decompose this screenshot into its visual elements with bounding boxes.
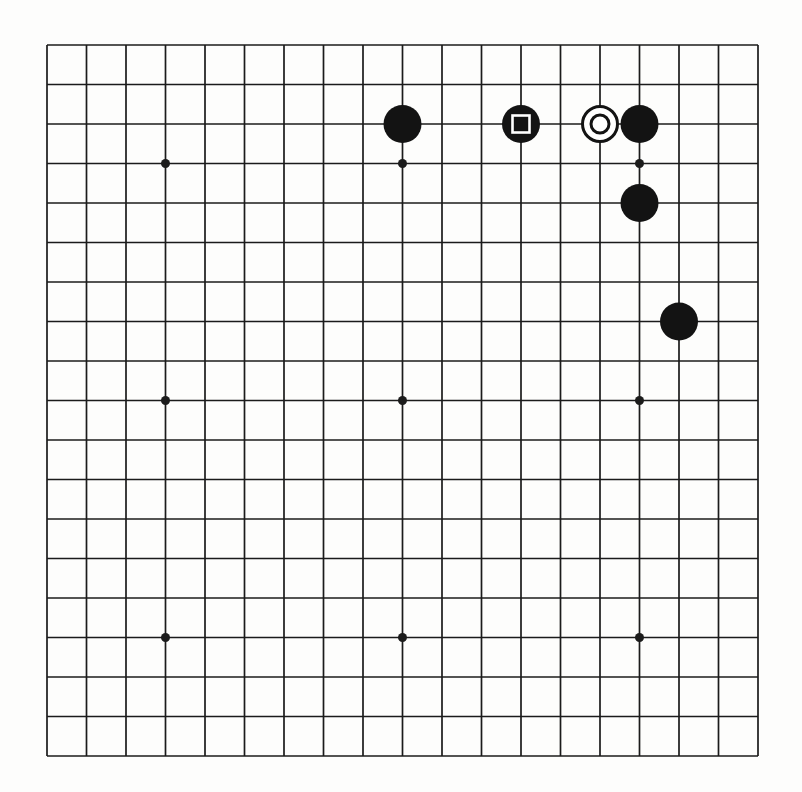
black-stone xyxy=(660,303,698,341)
black-stone xyxy=(502,105,540,143)
star-point xyxy=(635,159,644,168)
star-point xyxy=(398,396,407,405)
star-point xyxy=(398,159,407,168)
white-stone xyxy=(583,107,618,142)
scanned-page xyxy=(0,0,802,792)
star-point xyxy=(635,396,644,405)
star-point xyxy=(635,633,644,642)
star-point xyxy=(161,396,170,405)
black-stone xyxy=(621,184,659,222)
star-point xyxy=(161,633,170,642)
star-point xyxy=(161,159,170,168)
go-board xyxy=(0,0,802,792)
star-point xyxy=(398,633,407,642)
black-stone xyxy=(384,105,422,143)
black-stone xyxy=(621,105,659,143)
